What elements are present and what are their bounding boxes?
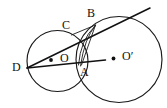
point-label-a: A [80,66,89,78]
point-label-d: D [12,61,21,73]
arc-ba-inner [79,27,95,66]
geometry-figure: D A B C O O′ [0,0,167,108]
center-dot-o-prime [112,57,116,61]
figure-canvas [0,0,167,108]
center-label-o: O [60,52,69,64]
center-dot-o [49,58,53,62]
point-label-c: C [62,19,70,31]
right-circle [76,17,162,103]
center-label-o-prime: O′ [122,50,133,62]
point-label-b: B [87,7,95,19]
